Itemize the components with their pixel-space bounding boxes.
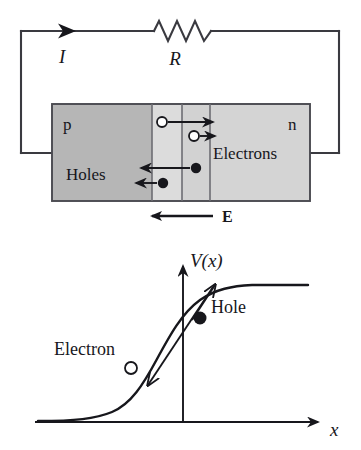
plot-electron-arrow bbox=[148, 287, 213, 385]
electron-lower-marker bbox=[189, 131, 199, 141]
resistor-zigzag bbox=[154, 21, 211, 41]
current-label: I bbox=[58, 46, 67, 67]
holes-label: Holes bbox=[66, 165, 106, 184]
plot-x-axis-label: x bbox=[329, 419, 339, 440]
plot-electron-marker bbox=[125, 362, 137, 374]
region-depletion-left bbox=[152, 104, 182, 201]
plot-y-axis-label: V(x) bbox=[190, 250, 223, 272]
region-depletion-right bbox=[182, 104, 210, 201]
n-region-label: n bbox=[288, 115, 297, 134]
plot-hole-label: Hole bbox=[211, 297, 246, 317]
physics-figure: I R p n bbox=[0, 0, 361, 450]
hole-lower-marker bbox=[158, 178, 168, 188]
efield-label: E bbox=[222, 208, 233, 225]
resistor-label: R bbox=[168, 48, 181, 69]
plot-electron-annotation: Electron bbox=[54, 287, 213, 385]
p-region-label: p bbox=[63, 115, 72, 134]
figure-canvas: I R p n bbox=[0, 0, 361, 450]
electron-upper-marker bbox=[157, 117, 167, 127]
electrons-label: Electrons bbox=[213, 144, 277, 163]
hole-upper-marker bbox=[191, 163, 201, 173]
plot-electron-label: Electron bbox=[54, 339, 115, 359]
efield-indicator: E bbox=[152, 208, 233, 225]
